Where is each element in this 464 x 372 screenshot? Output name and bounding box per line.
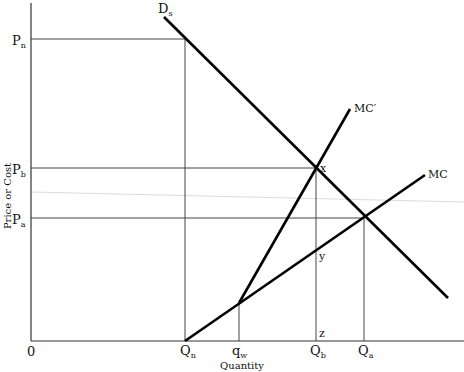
quantity-label-qb: Qb [310,343,326,360]
x-axis-title: Quantity [220,360,264,371]
economics-diagram: Price or Cost Pn Pb Pa 0 Qn qw Qb Qa Qua… [0,0,464,372]
price-label-pn: Pn [12,33,26,50]
price-label-pa: Pa [12,212,26,229]
quantity-label-qa: Qa [358,343,374,360]
point-y-label: y [318,250,326,263]
origin-label: 0 [27,344,35,359]
quantity-label-qw: qw [232,343,247,360]
mc-curve [185,175,425,341]
point-x-label: x [320,162,327,175]
mc-prime-curve [239,109,350,303]
point-z-label: z [319,327,325,340]
price-label-pb: Pb [12,162,26,179]
demand-curve-label: Ds [158,1,173,18]
mc-curve-label: MC [428,168,448,181]
quantity-label-qn: Qn [180,343,196,360]
mc-prime-curve-label: MC′ [354,102,377,115]
